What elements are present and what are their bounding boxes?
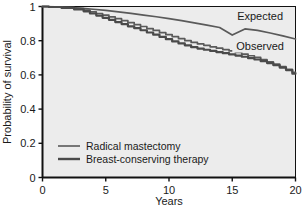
y-axis-title: Probability of survival bbox=[1, 40, 13, 144]
y-tick-label: 0.8 bbox=[20, 35, 35, 47]
x-tick-label: 10 bbox=[163, 184, 175, 196]
legend-label: Breast-conserving therapy bbox=[86, 153, 209, 165]
x-tick-label: 20 bbox=[289, 184, 301, 196]
legend-label: Radical mastectomy bbox=[86, 140, 181, 152]
x-tick-label: 0 bbox=[39, 184, 45, 196]
y-tick-label: 0.2 bbox=[20, 137, 35, 149]
survival-chart: 00.20.40.60.8105101520YearsProbability o… bbox=[0, 0, 303, 210]
annotation-observed: Observed bbox=[236, 40, 284, 52]
y-tick-label: 0.6 bbox=[20, 69, 35, 81]
chart-canvas: 00.20.40.60.8105101520YearsProbability o… bbox=[0, 0, 303, 210]
annotation-expected: Expected bbox=[237, 10, 283, 22]
y-tick-label: 0.4 bbox=[20, 103, 35, 115]
x-tick-label: 15 bbox=[226, 184, 238, 196]
x-tick-label: 5 bbox=[103, 184, 109, 196]
y-tick-label: 1 bbox=[29, 1, 35, 13]
x-axis-title: Years bbox=[155, 195, 183, 207]
y-tick-label: 0 bbox=[29, 172, 35, 184]
